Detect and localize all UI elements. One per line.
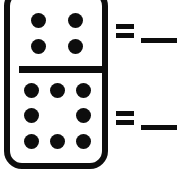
equals-sign-icon	[116, 22, 134, 38]
pip	[76, 108, 91, 123]
worksheet-canvas	[0, 0, 183, 172]
pip	[50, 134, 65, 149]
pip	[31, 13, 46, 28]
pip	[50, 83, 65, 98]
pip	[68, 13, 83, 28]
pip	[68, 39, 83, 54]
equation-row-top	[116, 22, 177, 43]
bottom-face-pip-grid	[18, 78, 96, 154]
top-face-pip-grid	[20, 7, 94, 59]
domino-divider-bar	[19, 66, 106, 73]
pip	[76, 83, 91, 98]
answer-blank-bottom[interactable]	[141, 125, 177, 130]
domino-tile	[4, 0, 108, 169]
pip	[76, 134, 91, 149]
domino-top-face	[10, 0, 102, 66]
pip	[24, 83, 39, 98]
domino-bottom-face	[10, 73, 102, 163]
pip	[24, 108, 39, 123]
equation-row-bottom	[116, 109, 177, 130]
pip	[31, 39, 46, 54]
pip	[24, 134, 39, 149]
answer-blank-top[interactable]	[141, 38, 177, 43]
pip-empty-slot	[50, 108, 65, 123]
equals-sign-icon	[116, 109, 134, 125]
